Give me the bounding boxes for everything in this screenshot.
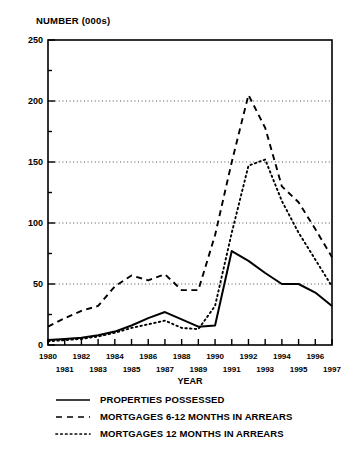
- legend-label: MORTGAGES 12 MONTHS IN ARREARS: [100, 428, 284, 439]
- svg-text:1997: 1997: [323, 365, 341, 374]
- svg-text:1981: 1981: [56, 365, 74, 374]
- svg-text:1992: 1992: [240, 352, 258, 361]
- svg-text:150: 150: [28, 157, 43, 167]
- x-axis-ticks: [48, 339, 332, 345]
- svg-text:1995: 1995: [290, 365, 308, 374]
- svg-text:1984: 1984: [106, 352, 124, 361]
- svg-text:50: 50: [33, 279, 43, 289]
- svg-text:1988: 1988: [173, 352, 191, 361]
- svg-text:1990: 1990: [206, 352, 224, 361]
- svg-text:1991: 1991: [223, 365, 241, 374]
- legend-label: MORTGAGES 6-12 MONTHS IN ARREARS: [100, 411, 292, 422]
- svg-text:1987: 1987: [156, 365, 174, 374]
- legend-swatch-dotted-icon: [55, 428, 91, 440]
- svg-text:200: 200: [28, 96, 43, 106]
- data-series-layer: [48, 95, 332, 341]
- y-axis-tick-labels: 050100150200250: [28, 35, 43, 350]
- x-axis-tick-labels: 1980198119821983198419851986198719881989…: [39, 352, 341, 374]
- svg-text:100: 100: [28, 218, 43, 228]
- x-axis-title: YEAR: [177, 376, 203, 386]
- svg-text:1982: 1982: [73, 352, 91, 361]
- svg-text:1994: 1994: [273, 352, 291, 361]
- svg-text:1980: 1980: [39, 352, 57, 361]
- svg-text:1996: 1996: [306, 352, 324, 361]
- chart-plot: 050100150200250 198019811982198319841985…: [0, 0, 349, 391]
- svg-text:1983: 1983: [89, 365, 107, 374]
- svg-text:1985: 1985: [123, 365, 141, 374]
- chart-legend: PROPERTIES POSSESSED MORTGAGES 6-12 MONT…: [0, 391, 349, 442]
- legend-swatch-solid-icon: [55, 394, 91, 406]
- svg-text:0: 0: [38, 340, 43, 350]
- legend-label: PROPERTIES POSSESSED: [100, 394, 224, 405]
- svg-text:250: 250: [28, 35, 43, 45]
- legend-item: MORTGAGES 12 MONTHS IN ARREARS: [0, 425, 349, 442]
- chart-container: NUMBER (000s) 050100150200250 1980198119…: [0, 0, 349, 461]
- y-axis-ticks: [48, 40, 55, 345]
- svg-text:1993: 1993: [256, 365, 274, 374]
- svg-text:1986: 1986: [139, 352, 157, 361]
- legend-swatch-dashed-icon: [55, 411, 91, 423]
- legend-item: MORTGAGES 6-12 MONTHS IN ARREARS: [0, 408, 349, 425]
- legend-item: PROPERTIES POSSESSED: [0, 391, 349, 408]
- svg-text:1989: 1989: [189, 365, 207, 374]
